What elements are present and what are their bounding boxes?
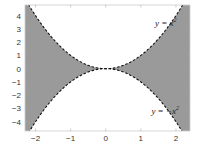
x-tick-label: 2 bbox=[174, 134, 179, 143]
y-tick-label: −2 bbox=[12, 91, 22, 100]
y-tick-label: −3 bbox=[12, 104, 22, 113]
x-tick-label: −2 bbox=[31, 134, 41, 143]
label-y-equals-x-squared: y = x2 bbox=[154, 17, 177, 28]
y-tick-label: 2 bbox=[17, 38, 22, 47]
chart: −2−1012 −4−3−2−101234 y = x2y = −x2 bbox=[0, 0, 197, 149]
y-tick-label: 0 bbox=[17, 65, 22, 74]
x-tick-label: 0 bbox=[104, 134, 109, 143]
y-tick-label: −1 bbox=[12, 78, 22, 87]
y-tick-label: 4 bbox=[17, 12, 22, 21]
y-tick-label: −4 bbox=[12, 118, 22, 127]
x-tick-label: 1 bbox=[139, 134, 144, 143]
y-tick-label: 3 bbox=[17, 25, 22, 34]
y-tick-label: 1 bbox=[17, 51, 22, 60]
label-y-equals-neg-x-squared: y = −x2 bbox=[150, 105, 179, 116]
x-tick-label: −1 bbox=[66, 134, 76, 143]
